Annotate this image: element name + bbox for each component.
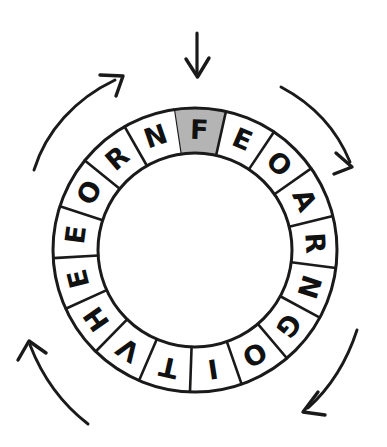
segment-letter: R: [299, 232, 331, 255]
wheel-svg: FEOARNGOITVHEEORN: [0, 0, 387, 447]
segment-letter: F: [189, 114, 209, 146]
down-arrow-icon: [186, 33, 209, 77]
segment-divider: [190, 347, 192, 392]
diagram-canvas: FEOARNGOITVHEEORN: [0, 0, 387, 447]
arc-arrow-bottom-right-icon: [303, 330, 357, 415]
arc-arrow-bottom-left-icon: [18, 341, 88, 424]
segment-letter: E: [59, 224, 92, 246]
inner-ring-edge: [98, 153, 292, 347]
